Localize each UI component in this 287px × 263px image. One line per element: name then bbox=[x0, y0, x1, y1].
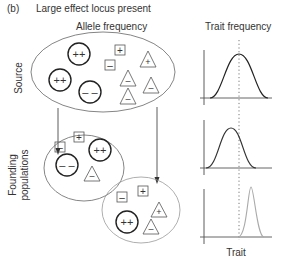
genotype-triangle-minus: – bbox=[120, 88, 136, 104]
genotype-circle-pp: ++ bbox=[116, 211, 138, 233]
source-population: ++ ++ – – + – + – – bbox=[31, 32, 175, 112]
genotype-circle-pp: ++ bbox=[49, 69, 71, 91]
svg-text:+: + bbox=[117, 45, 123, 56]
svg-text:–: – bbox=[125, 94, 130, 104]
svg-text:–: – bbox=[148, 83, 153, 93]
genotype-circle-mm: – – bbox=[79, 81, 101, 103]
figure-title: Large effect locus present bbox=[36, 3, 151, 14]
svg-text:++: ++ bbox=[94, 144, 107, 156]
trait-plot-source bbox=[200, 50, 272, 105]
trait-axis-label: Trait bbox=[226, 247, 246, 258]
svg-text:– –: – – bbox=[82, 86, 98, 98]
svg-text:+: + bbox=[145, 57, 150, 67]
svg-text:+: + bbox=[140, 186, 146, 197]
genotype-square-minus: – bbox=[117, 192, 127, 203]
genotype-square-plus: + bbox=[115, 45, 125, 56]
genotype-square-plus: + bbox=[138, 186, 148, 197]
svg-text:+: + bbox=[156, 207, 161, 217]
trait-frequency-header: Trait frequency bbox=[205, 21, 271, 32]
genotype-triangle-plus: + bbox=[151, 202, 167, 217]
genotype-square-minus: – bbox=[55, 142, 65, 153]
svg-text:++: ++ bbox=[54, 74, 67, 86]
founding-population-1: – + ++ – – – bbox=[44, 132, 124, 201]
svg-text:–: – bbox=[125, 76, 130, 86]
genotype-triangle-plus: + bbox=[140, 51, 156, 67]
svg-text:–: – bbox=[107, 60, 113, 71]
genotype-triangle-minus: – bbox=[120, 70, 136, 86]
allele-frequency-header: Allele frequency bbox=[76, 21, 147, 32]
founding-population-2: – + ++ + – bbox=[102, 177, 180, 243]
panel-label: (b) bbox=[7, 3, 19, 14]
source-label: Source bbox=[13, 62, 24, 94]
genotype-square-plus: + bbox=[74, 132, 84, 143]
svg-text:+: + bbox=[76, 132, 82, 143]
genotype-triangle-minus: – bbox=[84, 166, 100, 181]
svg-text:–: – bbox=[89, 171, 94, 181]
diagram-canvas: (b) Large effect locus present Allele fr… bbox=[0, 0, 287, 263]
genotype-circle-pp: ++ bbox=[68, 43, 90, 65]
svg-text:++: ++ bbox=[121, 216, 134, 228]
founding-label-line2: populations bbox=[19, 149, 30, 200]
svg-text:– –: – – bbox=[59, 159, 75, 171]
genotype-square-minus: – bbox=[105, 60, 115, 71]
genotype-circle-pp: ++ bbox=[89, 139, 111, 161]
svg-text:–: – bbox=[148, 224, 153, 234]
trait-plot-founding-2 bbox=[200, 187, 272, 244]
svg-text:–: – bbox=[57, 142, 63, 153]
arrow-to-founding-2 bbox=[155, 107, 160, 184]
founding-label-line1: Founding bbox=[7, 154, 18, 196]
svg-text:++: ++ bbox=[73, 48, 86, 60]
genotype-circle-mm: – – bbox=[56, 154, 78, 176]
genotype-triangle-minus: – bbox=[143, 77, 159, 93]
trait-plot-founding-1 bbox=[200, 120, 272, 175]
svg-text:–: – bbox=[119, 192, 125, 203]
genotype-triangle-minus: – bbox=[143, 219, 159, 234]
